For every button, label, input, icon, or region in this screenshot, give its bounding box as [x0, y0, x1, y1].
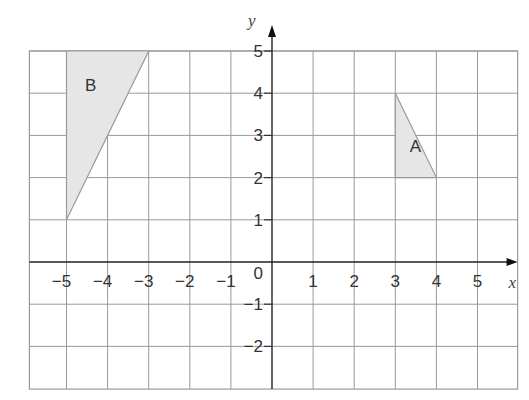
- y-axis-label: y: [246, 11, 256, 30]
- x-tick-label: −4: [93, 272, 112, 291]
- x-axis-arrow-icon: [507, 258, 518, 266]
- y-tick-label: 3: [254, 126, 263, 145]
- x-axis-label: x: [508, 273, 517, 292]
- x-tick-label: 2: [349, 272, 358, 291]
- y-tick-label: −1: [244, 295, 263, 314]
- x-tick-label: −1: [216, 272, 235, 291]
- coordinate-grid: AB −5−4−3−2−11234554321−1−20xy: [0, 0, 529, 400]
- x-tick-label: 3: [391, 272, 400, 291]
- y-axis-arrow-icon: [268, 25, 276, 37]
- y-tick-label: 5: [254, 42, 263, 61]
- y-tick-label: 1: [254, 211, 263, 230]
- triangle-label-a: A: [410, 137, 422, 156]
- x-tick-label: 4: [432, 272, 441, 291]
- x-tick-label: 1: [308, 272, 317, 291]
- x-tick-label: −3: [134, 272, 153, 291]
- y-tick-label: −2: [244, 337, 263, 356]
- x-tick-label: −2: [175, 272, 194, 291]
- y-tick-label: 2: [254, 169, 263, 188]
- y-tick-label: 4: [254, 84, 263, 103]
- x-tick-label: 5: [473, 272, 482, 291]
- origin-label: 0: [254, 264, 263, 283]
- x-tick-label: −5: [52, 272, 71, 291]
- triangle-label-b: B: [85, 76, 96, 95]
